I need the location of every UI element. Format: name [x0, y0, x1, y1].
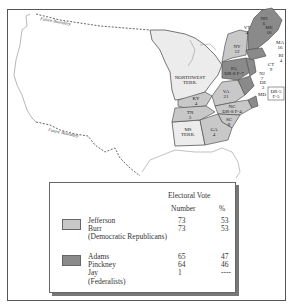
svg-text:DR-8 F-4: DR-8 F-4	[222, 109, 242, 114]
legend-dr-group: Jefferson Burr (Democratic Republicans)	[88, 217, 167, 242]
state-ct-ri	[246, 48, 266, 60]
svg-text:21: 21	[224, 94, 230, 99]
svg-text:16: 16	[267, 30, 273, 35]
west-coastline	[14, 14, 36, 122]
svg-text:MD: MD	[258, 92, 266, 97]
legend-col-number: Number	[171, 204, 196, 213]
svg-text:16: 16	[278, 45, 284, 50]
svg-text:9: 9	[270, 67, 273, 72]
future-boundary-south-label: Future Boundary	[47, 127, 79, 139]
northwest-territory	[150, 30, 222, 100]
legend-federalist-group: Adams Pinckney Jay (Federalists)	[88, 253, 126, 286]
svg-text:4: 4	[280, 58, 283, 63]
federalist-swatch	[62, 255, 81, 266]
dr-swatch	[62, 219, 81, 230]
gulf-coastline	[142, 148, 240, 178]
svg-text:F-5: F-5	[273, 94, 280, 99]
legend-col-percent: %	[219, 204, 225, 213]
svg-text:12: 12	[235, 49, 241, 54]
legend: Electoral Vote Number % Jefferson Burr (…	[49, 182, 236, 293]
svg-text:DR-8 F-7: DR-8 F-7	[224, 71, 244, 76]
legend-header: Electoral Vote	[168, 191, 210, 200]
future-boundary-north-label: Future Boundary	[39, 16, 71, 26]
svg-text:3: 3	[262, 85, 265, 90]
